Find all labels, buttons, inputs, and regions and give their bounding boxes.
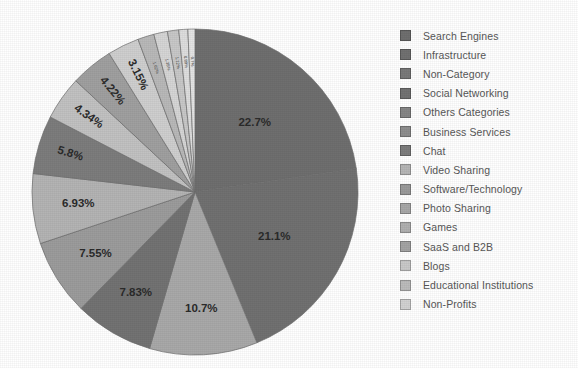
legend-item[interactable]: Search Engines (400, 26, 578, 45)
pie-slice-value-label: 21.1% (258, 230, 291, 242)
legend-swatch-icon (400, 241, 411, 252)
legend-swatch-icon (400, 49, 411, 60)
chart-legend: Search EnginesInfrastructureNon-Category… (400, 26, 578, 314)
pie-slice-value-label: 0.89% (183, 56, 189, 68)
legend-item-label: Software/Technology (423, 183, 522, 195)
legend-item[interactable]: Blogs (400, 256, 578, 275)
legend-item-label: Business Services (423, 126, 510, 138)
legend-swatch-icon (400, 107, 411, 118)
legend-swatch-icon (400, 222, 411, 233)
legend-item-label: Non-Category (423, 68, 490, 80)
legend-item[interactable]: Games (400, 218, 578, 237)
legend-item-label: Video Sharing (423, 164, 490, 176)
legend-swatch-icon (400, 88, 411, 99)
legend-item[interactable]: Infrastructure (400, 45, 578, 64)
legend-swatch-icon (400, 280, 411, 291)
legend-item-label: Search Engines (423, 30, 499, 42)
pie-chart-svg: 22.7%21.1%10.7%7.83%7.55%6.93%5.8%4.34%4… (30, 27, 360, 357)
legend-swatch-icon (400, 68, 411, 79)
legend-swatch-icon (400, 164, 411, 175)
legend-item-label: Non-Profits (423, 298, 477, 310)
legend-item-label: Blogs (423, 260, 450, 272)
legend-item-label: SaaS and B2B (423, 241, 493, 253)
legend-swatch-icon (400, 260, 411, 271)
legend-swatch-icon (400, 126, 411, 137)
legend-swatch-icon (400, 203, 411, 214)
legend-item[interactable]: Educational Institutions (400, 275, 578, 294)
pie-chart-plot-area: 22.7%21.1%10.7%7.83%7.55%6.93%5.8%4.34%4… (30, 27, 360, 357)
legend-swatch-icon (400, 299, 411, 310)
legend-item[interactable]: SaaS and B2B (400, 237, 578, 256)
legend-item[interactable]: Photo Sharing (400, 199, 578, 218)
legend-item[interactable]: Others Categories (400, 103, 578, 122)
legend-item[interactable]: Social Networking (400, 84, 578, 103)
pie-chart-figure: 22.7%21.1%10.7%7.83%7.55%6.93%5.8%4.34%4… (0, 0, 578, 368)
legend-item[interactable]: Non-Category (400, 64, 578, 83)
pie-slice-value-label: 10.7% (185, 302, 218, 314)
legend-item-label: Social Networking (423, 87, 509, 99)
legend-swatch-icon (400, 145, 411, 156)
legend-item[interactable]: Non-Profits (400, 295, 578, 314)
legend-item-label: Photo Sharing (423, 202, 491, 214)
pie-slice-value-label: 7.55% (79, 247, 112, 259)
legend-swatch-icon (400, 184, 411, 195)
pie-slice-value-label: 0.7% (190, 57, 195, 67)
legend-item[interactable]: Software/Technology (400, 180, 578, 199)
legend-item-label: Infrastructure (423, 49, 486, 61)
legend-item-label: Chat (423, 145, 446, 157)
pie-slice-value-label: 7.83% (119, 286, 152, 298)
legend-item-label: Educational Institutions (423, 279, 533, 291)
legend-item-label: Games (423, 221, 457, 233)
pie-slice-value-label: 22.7% (238, 116, 271, 128)
legend-item-label: Others Categories (423, 106, 510, 118)
legend-item[interactable]: Video Sharing (400, 160, 578, 179)
legend-item[interactable]: Business Services (400, 122, 578, 141)
pie-slice[interactable] (195, 29, 356, 192)
pie-slice-value-label: 6.93% (62, 197, 95, 209)
legend-item[interactable]: Chat (400, 141, 578, 160)
legend-swatch-icon (400, 30, 411, 41)
